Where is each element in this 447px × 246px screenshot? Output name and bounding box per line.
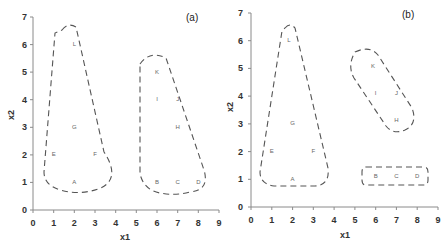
point-label-d: D <box>196 179 201 185</box>
y-tick-label: 4 <box>238 91 243 101</box>
cluster-hull-top-right <box>351 49 414 132</box>
point-label-i: I <box>156 96 158 102</box>
point-label-l: L <box>73 41 77 47</box>
x-ticks: 0 1 2 3 4 5 6 7 8 9 <box>249 207 441 225</box>
point-label-a: A <box>72 179 76 185</box>
x-tick-label: 9 <box>217 218 222 228</box>
point-label-i: I <box>375 90 377 96</box>
cluster-hull-left <box>44 25 112 192</box>
y-tick-label: 1 <box>22 177 27 187</box>
x-tick-label: 2 <box>72 218 77 228</box>
point-label-j: J <box>395 90 398 96</box>
x-axis-title: x1 <box>120 232 130 242</box>
point-label-a: A <box>291 176 295 182</box>
y-tick-label: 5 <box>238 63 243 73</box>
x-tick-label: 3 <box>93 218 98 228</box>
panel-label: (a) <box>186 12 198 23</box>
y-tick-label: 5 <box>22 67 27 77</box>
point-label-j: J <box>176 96 179 102</box>
panel-label: (b) <box>402 9 414 20</box>
cluster-hull-right <box>140 55 205 194</box>
x-tick-label: 4 <box>332 215 337 225</box>
x-tick-label: 5 <box>134 218 139 228</box>
point-label-b: B <box>155 179 159 185</box>
y-tick-label: 6 <box>22 40 27 50</box>
y-ticks: 0 1 2 3 4 5 6 7 <box>22 12 33 215</box>
point-label-e: E <box>52 151 56 157</box>
point-label-h: H <box>176 124 180 130</box>
figure: 0 1 2 3 4 5 6 7 0 1 2 3 4 5 6 <box>0 0 447 246</box>
x-tick-label: 6 <box>155 218 160 228</box>
point-label-c: C <box>394 173 399 179</box>
x-tick-label: 6 <box>373 215 378 225</box>
x-axis-title: x1 <box>340 230 350 240</box>
point-label-e: E <box>270 148 274 154</box>
data-points: A B C D E F G H I J K L <box>52 41 201 185</box>
x-tick-label: 9 <box>436 215 441 225</box>
x-tick-label: 0 <box>249 215 254 225</box>
x-tick-label: 7 <box>394 215 399 225</box>
y-tick-label: 2 <box>238 147 243 157</box>
y-axis-title: x2 <box>225 102 235 112</box>
data-points: A B C D E F G H I J K L <box>270 37 420 182</box>
y-ticks: 0 1 2 3 4 5 6 7 <box>238 8 251 212</box>
y-tick-label: 0 <box>22 205 27 215</box>
y-tick-label: 6 <box>238 36 243 46</box>
x-tick-label: 8 <box>415 215 420 225</box>
point-label-h: H <box>394 117 398 123</box>
cluster-hull-left <box>260 25 328 186</box>
y-tick-label: 0 <box>238 202 243 212</box>
point-label-g: G <box>72 124 77 130</box>
chart-panel-b: 0 1 2 3 4 5 6 7 0 1 2 3 4 5 6 <box>225 8 441 240</box>
x-tick-label: 1 <box>269 215 274 225</box>
point-label-b: B <box>374 173 378 179</box>
y-tick-label: 7 <box>22 12 27 22</box>
x-ticks: 0 1 2 3 4 5 6 7 8 9 <box>31 210 222 228</box>
point-label-d: D <box>415 173 420 179</box>
x-tick-label: 1 <box>51 218 56 228</box>
chart-panel-a: 0 1 2 3 4 5 6 7 0 1 2 3 4 5 6 <box>6 12 222 242</box>
point-label-l: L <box>287 37 291 43</box>
x-tick-label: 8 <box>196 218 201 228</box>
y-tick-label: 1 <box>238 174 243 184</box>
point-label-k: K <box>371 63 375 69</box>
point-label-g: G <box>290 120 295 126</box>
x-tick-label: 7 <box>175 218 180 228</box>
point-label-f: F <box>311 148 315 154</box>
x-tick-label: 4 <box>113 218 118 228</box>
y-axis-title: x2 <box>6 110 16 120</box>
x-tick-label: 2 <box>290 215 295 225</box>
x-tick-label: 5 <box>352 215 357 225</box>
point-label-c: C <box>176 179 181 185</box>
y-tick-label: 2 <box>22 150 27 160</box>
y-tick-label: 3 <box>238 119 243 129</box>
point-label-f: F <box>93 151 97 157</box>
y-tick-label: 7 <box>238 8 243 18</box>
x-tick-label: 0 <box>31 218 36 228</box>
x-tick-label: 3 <box>311 215 316 225</box>
y-tick-label: 4 <box>22 95 27 105</box>
y-tick-label: 3 <box>22 122 27 132</box>
point-label-k: K <box>155 69 159 75</box>
